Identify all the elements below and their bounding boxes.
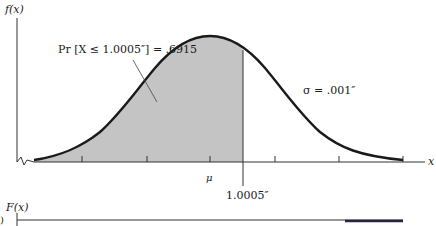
sigma-annotation: σ = .001″ — [303, 85, 355, 96]
cdf-y-label: F(x) — [6, 202, 28, 213]
pdf-y-label: f(x) — [5, 4, 24, 15]
pdf-x-label: x — [428, 156, 434, 167]
pdf-chart — [0, 0, 436, 226]
mu-label: μ — [206, 173, 213, 183]
probability-annotation: Pr [X ≤ 1.0005″] = .6915 — [58, 44, 197, 55]
axis-break-icon — [17, 157, 34, 165]
cdf-y-tick: ) — [0, 215, 4, 225]
boundary-value-label: 1.0005″ — [226, 190, 269, 201]
